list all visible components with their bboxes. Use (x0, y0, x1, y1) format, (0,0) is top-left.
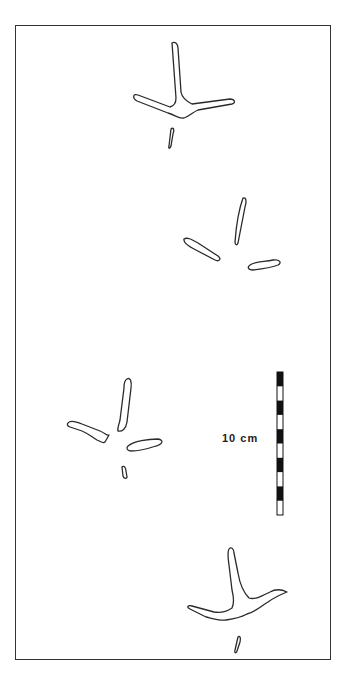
footprint-4 (188, 548, 287, 653)
trackway-drawing (0, 0, 348, 673)
footprint-3 (67, 378, 162, 478)
footprint-1 (134, 42, 235, 148)
scale-bar (277, 372, 283, 515)
footprint-2 (184, 198, 280, 270)
scale-bar-label: 10 cm (222, 432, 258, 444)
